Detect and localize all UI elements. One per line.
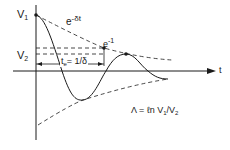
- time-constant-label: te= 1/δ: [60, 57, 88, 67]
- lower-envelope: [38, 79, 168, 125]
- v2-label: V2: [17, 50, 28, 62]
- arrow-left-icon: [37, 62, 42, 66]
- v1-point: [34, 13, 38, 17]
- t-axis-arrow-icon: [207, 68, 216, 74]
- envelope-label: e-δt: [66, 15, 81, 27]
- damped-oscillation-diagram: [0, 0, 230, 150]
- t-axis-label: t: [219, 66, 222, 75]
- log-decrement-formula: Λ = ℓn V1/V2: [131, 106, 178, 116]
- arrow-right-icon: [98, 62, 103, 66]
- e-inv-label: e-1: [103, 37, 114, 49]
- v2-peak-point: [124, 52, 128, 56]
- v1-label: V1: [17, 9, 28, 21]
